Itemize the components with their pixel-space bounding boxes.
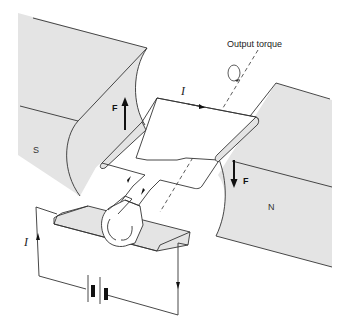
force-label-right: F (243, 176, 249, 186)
torque-rotation-icon (228, 65, 240, 82)
battery-icon (88, 275, 108, 304)
current-label-circuit: I (23, 235, 29, 249)
output-torque-label: Output torque (227, 39, 282, 49)
split-ring-commutator (102, 196, 143, 247)
north-pole-label: N (268, 202, 275, 212)
south-pole-label: S (33, 145, 39, 155)
force-label-left: F (112, 103, 118, 113)
dc-motor-diagram: Output torque S N F F I I (0, 0, 350, 325)
current-label-loop: I (180, 84, 186, 98)
